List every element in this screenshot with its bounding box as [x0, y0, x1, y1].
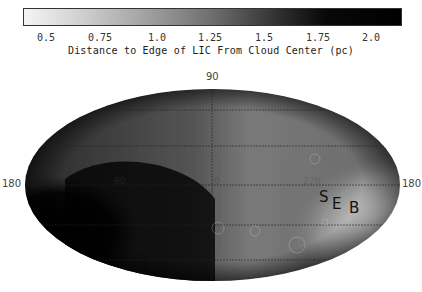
- label-lon-0: 0: [214, 176, 220, 186]
- colorbar-tick-6: 2.0: [362, 32, 380, 43]
- colorbar-tick-5: 1.75: [306, 32, 330, 43]
- colorbar-tick-0: 0.5: [37, 32, 55, 43]
- annotation-s: S: [319, 188, 329, 206]
- colorbar-tick-4: 1.5: [255, 32, 273, 43]
- colorbar: [23, 8, 402, 26]
- label-lat-90: 90: [206, 71, 219, 82]
- label-lon-180-left: 180: [2, 178, 21, 189]
- colorbar-tick-2: 1.0: [148, 32, 166, 43]
- colorbar-tick-3: 1.25: [198, 32, 222, 43]
- sky-map: [25, 89, 400, 281]
- annotation-b: B: [349, 199, 359, 217]
- label-lon-90: 90: [114, 176, 125, 186]
- colorbar-title: Distance to Edge of LIC From Cloud Cente…: [0, 45, 422, 56]
- colorbar-tick-1: 0.75: [88, 32, 112, 43]
- label-lon-180-right: 180: [402, 178, 421, 189]
- aitoff-map: [25, 89, 400, 281]
- annotation-e: E: [332, 195, 341, 213]
- label-lon-270: 270: [303, 176, 320, 186]
